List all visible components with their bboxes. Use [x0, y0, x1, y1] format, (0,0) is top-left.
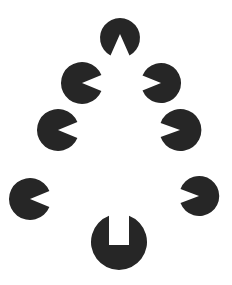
figure-svg — [0, 0, 232, 285]
illusory-contour-figure — [0, 0, 232, 285]
